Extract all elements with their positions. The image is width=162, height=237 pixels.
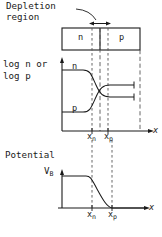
- block-region-label-p: p: [119, 33, 124, 43]
- carrier-tick-xn-sub: n: [92, 135, 96, 143]
- figure-canvas: Depletion region n p log n or log p n p …: [0, 0, 162, 237]
- potential-tick-xp-sub: p: [113, 213, 117, 221]
- semiconductor-block: [62, 28, 140, 50]
- carrier-tick-label-xp: xp: [104, 132, 113, 143]
- carrier-tick-label-xn: xn: [87, 132, 96, 143]
- potential-xaxis-label: x: [149, 203, 154, 213]
- carrier-ylabel-line1: log n or: [3, 59, 47, 69]
- depletion-annotation-line1: Depletion: [6, 1, 56, 11]
- potential-tick-label-xp: xp: [108, 210, 117, 221]
- potential-plot-axes: [58, 169, 150, 211]
- depletion-width-arrow: [89, 22, 111, 26]
- potential-tick-xn-sub: n: [92, 213, 96, 221]
- carrier-ylabel-line2: log p: [3, 71, 31, 81]
- carrier-tick-xp-sub: p: [109, 135, 113, 143]
- carrier-curve-label-p: p: [72, 104, 77, 114]
- depletion-annotation-line2: region: [6, 12, 39, 22]
- potential-ylabel: VB: [44, 166, 54, 178]
- carrier-curve-label-n: n: [72, 62, 77, 72]
- potential-ylabel-sub: B: [50, 170, 54, 178]
- depletion-leader-line: [76, 9, 96, 20]
- construction-dashed-lines: [92, 28, 140, 208]
- potential-title: Potential: [5, 150, 55, 160]
- potential-tick-label-xn: xn: [87, 210, 96, 221]
- curve-potential: [62, 176, 145, 208]
- carrier-xaxis-label: x: [153, 126, 158, 136]
- block-region-label-n: n: [78, 33, 83, 43]
